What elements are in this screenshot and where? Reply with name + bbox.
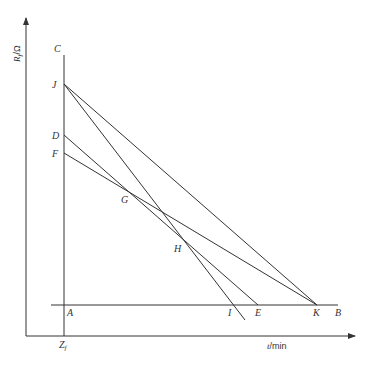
line-JK <box>64 84 317 305</box>
point-label-I: I <box>227 307 232 318</box>
y-axis-label: Rf/Ω <box>12 45 24 63</box>
point-label-B: B <box>335 307 341 318</box>
x-axis-label: t/min <box>267 341 287 351</box>
origin-label: Zf <box>59 339 68 352</box>
point-label-H: H <box>173 243 182 254</box>
point-label-J: J <box>52 79 57 90</box>
point-label-K: K <box>312 307 321 318</box>
point-label-G: G <box>121 194 128 205</box>
point-label-E: E <box>254 307 261 318</box>
point-label-D: D <box>51 130 60 141</box>
point-label-F: F <box>51 148 59 159</box>
point-label-A: A <box>66 307 74 318</box>
point-label-C: C <box>54 43 61 54</box>
line-FK <box>64 153 317 305</box>
svg-text:Rf/Ω: Rf/Ω <box>12 45 24 63</box>
line-JI <box>64 84 245 320</box>
diagram-svg: Rf/Ω t/min Zf C J D F G H A I E K B <box>0 0 365 365</box>
diagram-canvas: Rf/Ω t/min Zf C J D F G H A I E K B <box>0 0 365 365</box>
line-DE <box>64 135 258 305</box>
